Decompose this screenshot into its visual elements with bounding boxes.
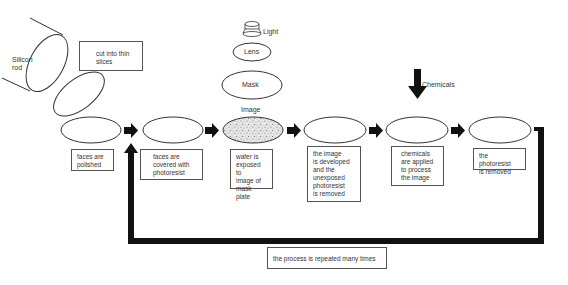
chemicals-label: Chemicals — [422, 81, 455, 88]
silicon-rod-label: Silicon rod — [12, 56, 38, 72]
step-6-box: the photoresistis removed — [473, 148, 526, 170]
step-1-ellipse — [61, 117, 121, 143]
step-4-ellipse — [304, 117, 366, 143]
step-2-ellipse — [143, 117, 203, 143]
step-2-box: faces arecovered withphotoresist — [140, 149, 203, 180]
image-label: Image — [241, 106, 260, 113]
loop-label-box: the process is repeated many times — [267, 247, 387, 269]
arrow-right-icon — [287, 123, 301, 138]
cut-into-slices-box: cut into thin slices — [79, 41, 143, 71]
mask-label: Mask — [242, 81, 259, 88]
arrow-right-icon — [205, 123, 219, 138]
step-5-ellipse — [386, 117, 448, 143]
lens-label: Lens — [244, 48, 259, 55]
arrow-right-icon — [451, 123, 465, 138]
step-6-ellipse — [469, 117, 531, 143]
step-3-box: wafer isexposed toimage ofmask plate — [230, 149, 273, 189]
light-label: Light — [263, 28, 278, 35]
light-icon — [243, 22, 261, 37]
step-1-box: faces arepolished — [71, 149, 114, 171]
arrow-right-icon — [124, 123, 138, 138]
arrow-right-icon — [369, 123, 383, 138]
step-3-ellipse — [223, 117, 283, 143]
step-5-box: chemicalsare appliedto processthe image — [391, 146, 444, 186]
step-4-box: the imageis developedand theunexposedpho… — [307, 146, 361, 202]
